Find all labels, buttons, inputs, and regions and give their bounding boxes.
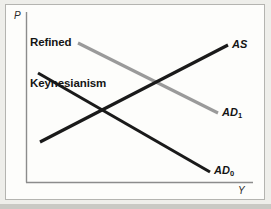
curve-label-ad1-base: AD bbox=[222, 106, 238, 118]
curve-label-ad0-subscript: 0 bbox=[230, 169, 234, 178]
y-axis-label: P bbox=[14, 10, 21, 21]
chart-title-line-2: Keynesianism bbox=[30, 77, 106, 91]
x-axis-label: Y bbox=[238, 185, 245, 196]
curve-label-ad1-subscript: 1 bbox=[238, 111, 242, 120]
curve-label-ad0-base: AD bbox=[214, 164, 230, 176]
curve-label-ad0: AD0 bbox=[214, 164, 234, 176]
chart-title: Refined Keynesianism bbox=[30, 9, 106, 117]
curve-label-ad1: AD1 bbox=[222, 106, 242, 118]
chart-title-line-1: Refined bbox=[30, 36, 106, 50]
curve-label-as: AS bbox=[232, 38, 247, 50]
figure-root: P Refined Keynesianism AS AD1 AD0 Y bbox=[0, 0, 271, 209]
